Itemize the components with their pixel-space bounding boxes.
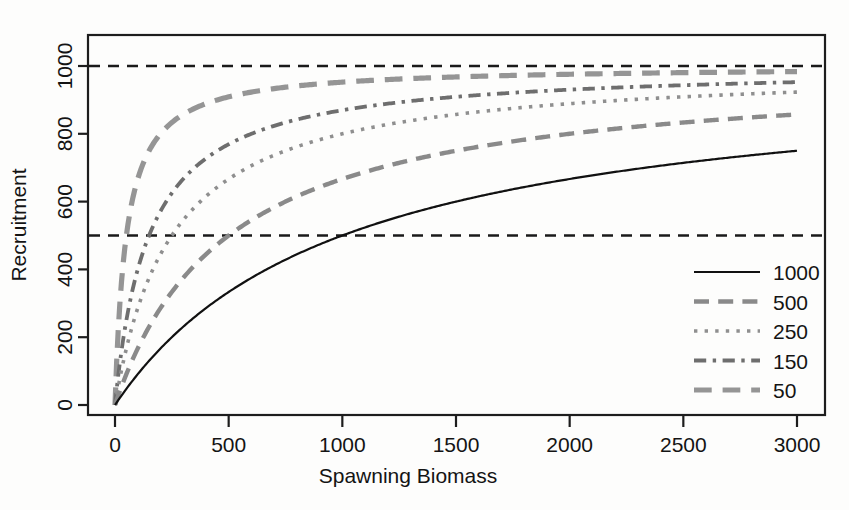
y-tick-label-0: 0 bbox=[53, 399, 76, 411]
reference-lines-group bbox=[89, 66, 824, 236]
legend-label-150: 150 bbox=[773, 350, 808, 373]
x-tick-label-3000: 3000 bbox=[774, 433, 821, 456]
curve-150 bbox=[115, 82, 797, 405]
y-axis-title: Recruitment bbox=[7, 168, 30, 281]
curve-series-group bbox=[115, 72, 797, 405]
legend: 100050025015050 bbox=[694, 261, 820, 402]
x-axis-title: Spawning Biomass bbox=[319, 464, 498, 487]
legend-label-50: 50 bbox=[773, 379, 796, 402]
stock-recruitment-plot: 02004006008001000 0500100015002000250030… bbox=[0, 0, 849, 510]
y-tick-label-400: 400 bbox=[53, 252, 76, 287]
curve-50 bbox=[115, 72, 797, 405]
legend-label-250: 250 bbox=[773, 320, 808, 343]
plot-frame bbox=[88, 35, 825, 415]
y-tick-label-200: 200 bbox=[53, 320, 76, 355]
y-tick-label-800: 800 bbox=[53, 116, 76, 151]
y-tick-label-1000: 1000 bbox=[53, 43, 76, 90]
curve-250 bbox=[115, 92, 797, 405]
legend-label-500: 500 bbox=[773, 291, 808, 314]
x-axis-ticks-group: 050010001500200025003000 bbox=[109, 415, 820, 456]
chart-figure: 02004006008001000 0500100015002000250030… bbox=[0, 0, 849, 510]
y-tick-label-600: 600 bbox=[53, 184, 76, 219]
x-tick-label-2000: 2000 bbox=[546, 433, 593, 456]
x-tick-label-2500: 2500 bbox=[660, 433, 707, 456]
x-tick-label-1500: 1500 bbox=[433, 433, 480, 456]
x-tick-label-500: 500 bbox=[211, 433, 246, 456]
legend-label-1000: 1000 bbox=[773, 261, 820, 284]
x-tick-label-0: 0 bbox=[109, 433, 121, 456]
x-tick-label-1000: 1000 bbox=[319, 433, 366, 456]
y-axis-ticks-group: 02004006008001000 bbox=[53, 43, 88, 411]
